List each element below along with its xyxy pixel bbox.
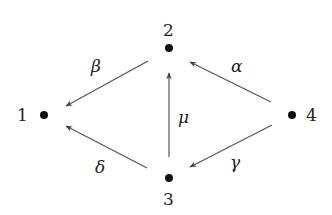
node-3-label: 3 — [163, 189, 174, 209]
edge-delta-arrow — [66, 126, 147, 168]
node-4-dot — [288, 111, 296, 119]
node-1-dot — [40, 111, 48, 119]
edge-beta-label: β — [90, 56, 101, 76]
node-3-dot — [165, 174, 173, 182]
edge-delta-label: δ — [95, 157, 105, 177]
edge-alpha-label: α — [231, 56, 243, 76]
node-4-label: 4 — [306, 105, 317, 125]
edge-mu-label: μ — [178, 107, 189, 127]
diagram-svg: 1 2 3 4 α β γ δ μ — [0, 0, 332, 215]
node-2-dot — [165, 44, 173, 52]
node-2-label: 2 — [163, 20, 174, 40]
edge-beta-arrow — [66, 61, 148, 106]
node-1-label: 1 — [17, 105, 28, 125]
edge-gamma-label: γ — [230, 152, 241, 172]
quiver-diagram: 1 2 3 4 α β γ δ μ — [0, 0, 332, 215]
